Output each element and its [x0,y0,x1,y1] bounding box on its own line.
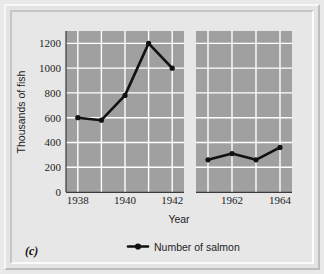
y-axis-title: Thousands of fish [15,70,27,153]
x-axis-tick-label: 1942 [161,194,183,206]
legend-label-number-of-salmon: Number of salmon [154,241,240,253]
x-axis-tick-label: 1938 [67,194,90,206]
y-axis-tick-label: 800 [45,87,62,99]
y-axis-zero-label: 0 [56,186,62,198]
data-point-marker [122,93,127,98]
y-axis-tick-label: 1200 [39,37,62,49]
x-axis-tick-label: 1962 [221,194,243,206]
legend-marker-dot-icon [135,243,141,249]
data-point-marker [146,41,151,46]
chart-legend: Number of salmon [128,241,240,253]
y-axis-tick-label: 600 [45,112,62,124]
x-axis-tick-label: 1964 [269,194,292,206]
data-point-marker [277,145,282,150]
x-axis-tick-label: 1940 [114,194,137,206]
x-axis-tick-labels: 19381940194219621964 [67,194,292,206]
data-point-marker [205,157,210,162]
figure-frame: 20040060080010001200 0 19381940194219621… [0,0,324,274]
y-axis-tick-label: 400 [45,136,62,148]
y-axis-tick-labels: 20040060080010001200 [39,37,62,173]
panel-tag-label: (c) [25,244,38,258]
data-point-marker [75,115,80,120]
data-point-marker [170,66,175,71]
data-point-marker [99,118,104,123]
data-point-marker [253,157,258,162]
x-axis-title: Year [168,213,190,225]
y-axis-tick-label: 200 [45,161,62,173]
y-axis-tick-label: 1000 [39,62,62,74]
chart-svg: 20040060080010001200 0 19381940194219621… [0,0,324,274]
data-point-marker [229,151,234,156]
salmon-line-chart: 20040060080010001200 0 19381940194219621… [0,0,324,274]
